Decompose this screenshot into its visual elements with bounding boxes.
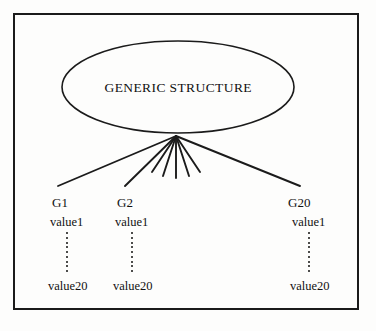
edge-to-g20: [176, 136, 300, 186]
last-value-label: value20: [48, 280, 88, 293]
first-value-label: value1: [115, 216, 148, 229]
vertical-ellipsis: [66, 232, 68, 272]
vertical-ellipsis: [308, 232, 310, 272]
group-label: G1: [52, 196, 68, 209]
group-label: G2: [117, 196, 133, 209]
first-value-label: value1: [292, 216, 325, 229]
vertical-ellipsis: [131, 232, 133, 272]
diagram-page: GENERIC STRUCTURE G1value1value20G2value…: [0, 0, 376, 331]
group-label: G20: [288, 196, 310, 209]
fan-edges: [58, 136, 300, 186]
last-value-label: value20: [290, 280, 330, 293]
last-value-label: value20: [113, 280, 153, 293]
edge-short-4: [176, 136, 189, 176]
first-value-label: value1: [50, 216, 83, 229]
generic-structure-label: GENERIC STRUCTURE: [105, 81, 252, 95]
